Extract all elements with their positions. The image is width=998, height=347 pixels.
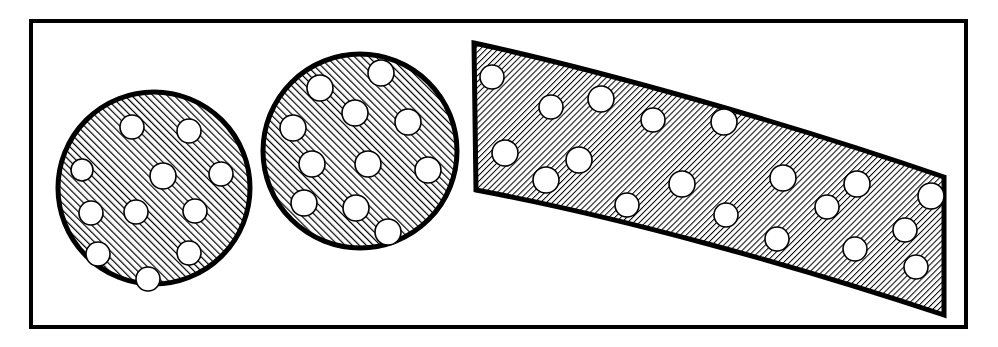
inclusion-dot <box>177 119 201 143</box>
inclusion-dot <box>209 162 233 186</box>
inclusion-dot <box>177 241 201 265</box>
inclusion-dot <box>375 219 401 245</box>
inclusion-dot <box>280 115 306 141</box>
inclusion-dot <box>843 237 867 261</box>
inclusion-dot <box>79 201 103 225</box>
figure-root <box>0 0 998 347</box>
inclusion-dot <box>566 147 592 173</box>
inclusion-dot <box>480 65 504 89</box>
inclusion-dot <box>136 267 160 291</box>
inclusion-dot <box>71 159 93 181</box>
inclusion-dot <box>904 255 928 279</box>
inclusion-dot <box>615 193 639 217</box>
inclusion-dot <box>343 195 369 221</box>
inclusion-dot <box>124 200 148 224</box>
inclusion-dot <box>765 227 789 251</box>
inclusion-dot <box>669 171 695 197</box>
inclusion-dot <box>86 242 110 266</box>
figure-canvas <box>0 0 998 347</box>
inclusion-dot <box>539 95 563 119</box>
circle-middle <box>263 54 457 248</box>
inclusion-dot <box>588 86 614 112</box>
inclusion-dot <box>415 157 441 183</box>
inclusion-dot <box>342 100 368 126</box>
inclusion-dot <box>711 109 737 135</box>
inclusion-dot <box>307 75 333 101</box>
inclusion-dot <box>120 115 144 139</box>
inclusion-dot <box>844 171 870 197</box>
inclusion-dot <box>533 167 559 193</box>
inclusion-dot <box>918 183 944 209</box>
inclusion-dot <box>492 140 518 166</box>
inclusion-dot <box>714 203 738 227</box>
inclusion-dot <box>893 218 917 242</box>
inclusion-dot <box>183 199 207 223</box>
inclusion-dot <box>299 151 325 177</box>
inclusion-dot <box>395 109 421 135</box>
inclusion-dot <box>641 108 665 132</box>
inclusion-dot <box>368 60 394 86</box>
inclusion-dot <box>815 195 839 219</box>
inclusion-dot <box>291 190 317 216</box>
inclusion-dot <box>770 165 796 191</box>
inclusion-dot <box>150 163 176 189</box>
inclusion-dot <box>355 151 381 177</box>
